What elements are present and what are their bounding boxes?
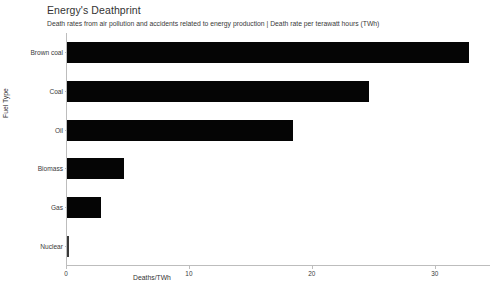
bar-row: Nuclear: [67, 236, 69, 257]
y-tick-label-biomass: Biomass: [38, 158, 67, 179]
y-axis-spine: [66, 33, 67, 266]
chart-figure: Energy's Deathprint Death rates from air…: [0, 0, 496, 292]
x-axis-spine: [66, 265, 490, 266]
x-tick-mark: [312, 266, 313, 269]
bar-row: Biomass: [67, 158, 124, 179]
y-tick-label-gas: Gas: [51, 197, 67, 218]
bar-coal: [67, 81, 369, 102]
x-tick-mark: [66, 266, 67, 269]
bar-nuclear: [67, 236, 69, 257]
title-block: Energy's Deathprint Death rates from air…: [47, 4, 487, 29]
plot-area: Brown coalCoalOilBiomassGasNuclear 01020…: [66, 33, 490, 266]
bar-biomass: [67, 158, 124, 179]
y-tick-label-oil: Oil: [55, 120, 67, 141]
x-tick-mark: [189, 266, 190, 269]
bar-row: Coal: [67, 81, 369, 102]
chart-title: Energy's Deathprint: [47, 4, 487, 17]
x-axis-title-label: Deaths/TWh: [133, 274, 171, 281]
bar-row: Gas: [67, 197, 101, 218]
bar-row: Oil: [67, 120, 293, 141]
y-tick-label-coal: Coal: [49, 81, 67, 102]
chart-subtitle: Death rates from air pollution and accid…: [47, 18, 487, 29]
bar-gas: [67, 197, 101, 218]
y-tick-label-brown-coal: Brown coal: [30, 42, 67, 63]
x-tick-mark: [435, 266, 436, 269]
bar-oil: [67, 120, 293, 141]
bar-row: Brown coal: [67, 42, 469, 63]
y-tick-label-nuclear: Nuclear: [40, 236, 67, 257]
bar-brown-coal: [67, 42, 469, 63]
y-axis-title: Fuel Type: [2, 88, 9, 118]
x-axis-title: Deaths/TWh: [0, 274, 496, 281]
